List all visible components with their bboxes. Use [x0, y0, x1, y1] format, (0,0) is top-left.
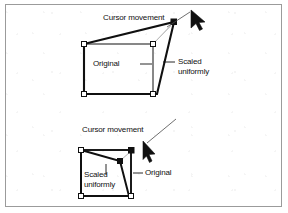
panel-scale-down	[79, 119, 177, 199]
cursor-leader-line-bottom	[147, 119, 176, 143]
handle-top-right-bottom[interactable]	[129, 148, 135, 154]
handle-top-left-bottom[interactable]	[79, 148, 84, 153]
original-shape-top[interactable]	[84, 44, 153, 94]
cursor-arrow-bottom	[143, 141, 155, 163]
handle-top-right[interactable]	[151, 42, 156, 47]
handle-bottom-right[interactable]	[151, 92, 156, 97]
handle-bottom-left[interactable]	[82, 92, 87, 97]
handle-top-left[interactable]	[82, 42, 87, 47]
cursor-arrow-top	[191, 10, 205, 31]
panel-scale-up	[82, 10, 206, 97]
handle-bottom-right-bottom[interactable]	[129, 194, 134, 199]
handle-dragged-bottom[interactable]	[118, 159, 123, 164]
cursor-leader-line-top	[167, 12, 190, 27]
handle-bottom-left-bottom[interactable]	[79, 194, 84, 199]
diagram-canvas	[0, 0, 288, 213]
figure-root: Cursor movement Original Scaled uniforml…	[0, 0, 288, 213]
